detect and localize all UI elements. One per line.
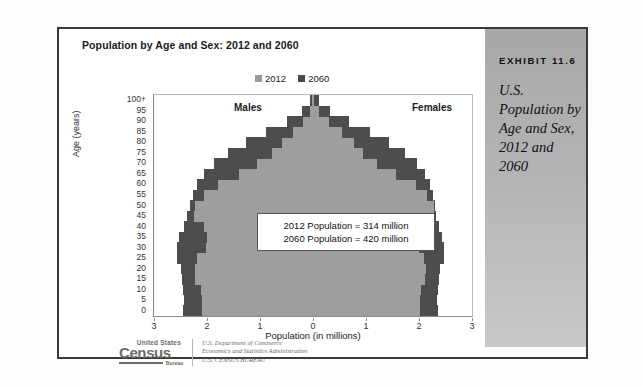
source-line-2: Economics and Statistics Administration [202,347,308,355]
y-axis-tick-label: 20 [137,264,146,272]
y-axis-tick-label: 35 [137,232,146,240]
bar-2012-male [195,274,313,285]
chart-container: Population by Age and Sex: 2012 and 2060… [59,29,489,361]
y-axis-tick-label: 95 [137,106,146,114]
x-axis-tick-mark [313,318,314,321]
bar-2012-female [313,200,434,211]
logo-bottom-row: Bureau [119,360,183,366]
bar-2012-female [313,284,421,295]
bar-2012-female [313,253,424,264]
y-axis-tick-label: 15 [137,274,146,282]
bar-2012-male [204,190,313,201]
legend-item-2060: 2060 [298,73,329,84]
y-axis-tick-label: 85 [137,127,146,135]
y-axis-tick-label: 75 [137,148,146,156]
females-label: Females [412,102,452,113]
y-axis-tick-label: 90 [137,116,146,124]
pyramid-row [154,148,472,159]
pyramid-row [154,127,472,138]
population-totals-annotation: 2012 Population = 314 million 2060 Popul… [257,213,435,251]
x-axis-tick-mark [472,318,473,321]
y-axis-label: Age (years) [71,110,81,157]
pyramid-row [154,284,472,295]
legend-label-2060: 2060 [308,73,329,84]
logo-rule [119,362,163,365]
bar-2012-female [313,295,420,306]
bar-2012-male [218,179,313,190]
bar-2012-female [313,106,319,117]
bar-2012-male [201,284,313,295]
pyramid-row [154,190,472,201]
y-axis-tick-label: 55 [137,190,146,198]
pyramid-row [154,200,472,211]
bar-2012-female [313,116,329,127]
x-axis-tick-mark [154,318,155,321]
y-axis-ticks: 0510152025303540455055606570758085909510… [105,89,150,321]
logo-bureau-text: Bureau [166,360,183,366]
y-axis-tick-label: 100+ [127,95,146,103]
pyramid-row [154,169,472,180]
source-text: U.S. Department of Commerce Economics an… [202,339,308,364]
source-block: United States Census Bureau U.S. Departm… [119,339,308,366]
bar-2012-male [293,127,313,138]
exhibit-caption: U.S. Population by Age and Sex, 2012 and… [499,81,581,176]
bar-2012-female [313,179,416,190]
bar-2012-male [282,137,313,148]
pyramid-row [154,253,472,264]
y-axis-tick-label: 25 [137,253,146,261]
pyramid-row [154,137,472,148]
pyramid-row [154,274,472,285]
y-axis-tick-label: 70 [137,158,146,166]
y-axis-tick-label: 30 [137,243,146,251]
males-label: Males [234,102,262,113]
bar-2012-female [313,127,342,138]
legend-label-2012: 2012 [265,73,286,84]
bar-2012-female [313,148,363,159]
x-axis-tick-mark [419,318,420,321]
y-axis-tick-label: 60 [137,179,146,187]
legend-swatch-2060-icon [298,75,305,82]
bar-2012-female [313,169,396,180]
bar-2012-male [195,263,313,274]
y-axis-tick-label: 50 [137,201,146,209]
source-line-3: U.S. CENSUS BUREAU [202,356,308,364]
pyramid-row [154,116,472,127]
pyramid-row [154,179,472,190]
bar-2012-female [313,137,354,148]
bar-2012-male [197,253,313,264]
y-axis-tick-label: 5 [141,295,146,303]
bar-2012-male [195,200,313,211]
legend-swatch-2012-icon [255,75,262,82]
exhibit-figure: Population by Age and Sex: 2012 and 2060… [57,27,588,359]
bar-2012-male [202,295,313,306]
exhibit-panel: EXHIBIT 11.6 U.S. Population by Age and … [485,29,586,347]
annotation-line-2060: 2060 Population = 420 million [264,232,428,245]
annotation-line-2012: 2012 Population = 314 million [264,219,428,232]
y-axis-tick-label: 0 [141,306,146,314]
census-logo: United States Census Bureau [119,339,183,366]
y-axis-tick-label: 40 [137,222,146,230]
bar-2012-male [202,305,313,316]
bar-2012-female [313,190,427,201]
chart-title: Population by Age and Sex: 2012 and 2060 [82,39,299,51]
pyramid-row [154,295,472,306]
pyramid-row [154,305,472,316]
exhibit-number: EXHIBIT 11.6 [499,55,586,66]
y-axis-tick-label: 10 [137,285,146,293]
x-axis-tick-mark [366,318,367,321]
bar-2012-male [272,148,313,159]
bar-2012-male [303,116,313,127]
pyramid-plot-area [153,94,473,317]
y-axis-tick-label: 45 [137,211,146,219]
chart-legend: 2012 2060 [255,73,329,84]
y-axis-tick-label: 80 [137,137,146,145]
bar-2012-male [257,158,313,169]
logo-census-text: Census [119,346,183,360]
bar-2012-female [313,274,425,285]
source-divider [192,339,193,366]
bar-2012-female [313,158,377,169]
y-axis-tick-label: 65 [137,169,146,177]
x-axis-tick-mark [260,318,261,321]
bar-2012-female [313,263,426,274]
source-line-1: U.S. Department of Commerce [202,339,308,347]
